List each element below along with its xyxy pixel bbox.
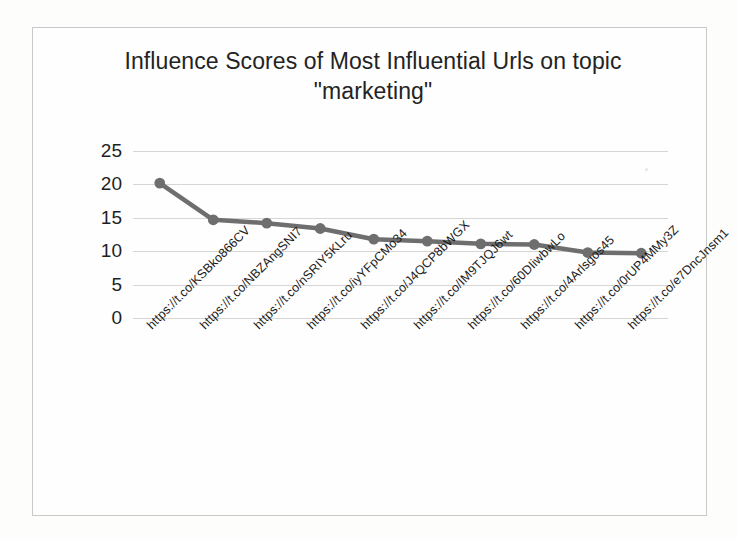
y-tick-label: 0 [111, 307, 122, 329]
scan-artifact [645, 168, 648, 171]
y-tick-label: 25 [101, 140, 122, 162]
x-axis-category-labels: https://t.co/KSBko866CVhttps://t.co/NBZA… [133, 318, 693, 508]
data-point [368, 234, 379, 245]
scanned-page: Influence Scores of Most Influential Url… [0, 0, 737, 539]
chart-frame: Influence Scores of Most Influential Url… [32, 27, 707, 516]
chart-title: Influence Scores of Most Influential Url… [73, 46, 673, 106]
data-point [154, 178, 165, 189]
data-point [261, 218, 272, 229]
y-tick-label: 15 [101, 207, 122, 229]
y-tick-label: 10 [101, 240, 122, 262]
y-tick-label: 5 [111, 274, 122, 296]
data-point [422, 236, 433, 247]
data-point [208, 214, 219, 225]
data-point [315, 223, 326, 234]
y-tick-label: 20 [101, 173, 122, 195]
